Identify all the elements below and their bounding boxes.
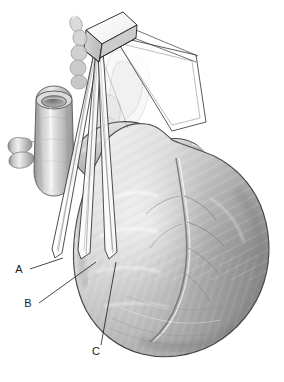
vessel-lumen <box>42 96 67 108</box>
label-b-text: B <box>24 297 31 309</box>
label-c-text: C <box>92 345 100 357</box>
illustration-canvas: A B C <box>0 0 284 382</box>
medical-illustration-figure: A B C <box>0 0 284 382</box>
label-a-text: A <box>15 263 23 275</box>
